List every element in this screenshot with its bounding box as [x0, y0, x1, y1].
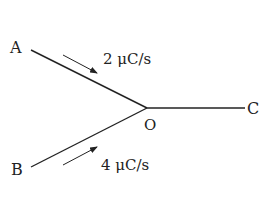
node-label-o: O	[144, 116, 156, 134]
node-label-c: C	[247, 99, 259, 118]
current-arrow-a-icon	[63, 55, 97, 73]
circuit-junction-diagram: A B O C 2 μC/s 4 μC/s	[0, 0, 278, 202]
node-label-a: A	[9, 38, 22, 57]
current-label-a: 2 μC/s	[103, 50, 151, 68]
node-label-b: B	[11, 160, 23, 179]
current-arrow-b-icon	[63, 147, 97, 165]
current-label-b: 4 μC/s	[101, 156, 149, 174]
